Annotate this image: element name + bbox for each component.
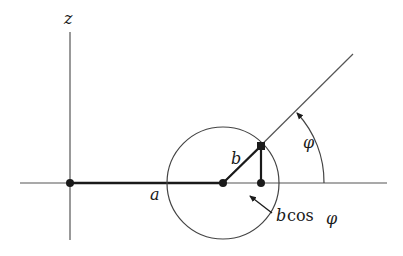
z-axis-label: z xyxy=(63,9,73,28)
bcos-cos-label: cos xyxy=(287,206,314,225)
diagram-canvas: z φ a b b cos φ xyxy=(0,0,403,256)
origin-point xyxy=(66,179,74,187)
center-point xyxy=(219,179,227,187)
bcos-arrow xyxy=(250,196,272,213)
b-label: b xyxy=(231,149,241,168)
foot-point xyxy=(257,179,265,187)
a-label: a xyxy=(150,185,160,204)
charge-point xyxy=(257,142,265,150)
phi-angle-label: φ xyxy=(303,133,315,152)
bcos-b-label: b xyxy=(276,206,286,225)
bcos-phi-label: φ xyxy=(326,209,338,228)
radius-b xyxy=(223,146,261,183)
